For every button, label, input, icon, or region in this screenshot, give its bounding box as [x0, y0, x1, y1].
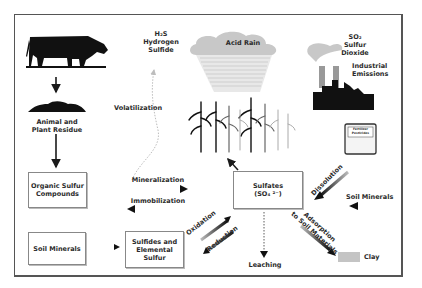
- corn-plants-icon: [189, 98, 295, 152]
- leaching-label: Leaching: [245, 261, 285, 269]
- industrial-emissions-label: Industrial Emissions: [352, 62, 392, 78]
- cow-icon: [26, 36, 108, 68]
- acid-rain-label: Acid Rain: [222, 39, 264, 47]
- mineralization-label: Mineralization: [130, 176, 186, 184]
- h2s-label: H₂S Hydrogen Sulfide: [143, 30, 179, 54]
- animal-plant-residue-label: Animal and Plant Residue: [28, 118, 86, 134]
- clay-label: Clay: [364, 253, 384, 261]
- sulfates-box: Sulfates (SO₄ ²⁻): [233, 171, 303, 209]
- residue-mound-icon: [28, 101, 86, 112]
- arrow-sulfates-to-plants: [228, 159, 238, 170]
- soil-minerals-right-label: Soil Minerals: [346, 193, 388, 201]
- volatilization-path: [132, 70, 158, 180]
- so2-label: SO₂ Sulfur Dioxide: [340, 33, 370, 57]
- soil-minerals-box: Soil Minerals: [28, 232, 86, 265]
- clay-swatch: [338, 252, 360, 262]
- sulfides-elemental-sulfur-box: Sulfides and Elemental Sulfur: [125, 231, 184, 268]
- volatilization-label: Volatilization: [114, 104, 160, 112]
- fertilizer-bag-label: Fertilizer Pesticides: [346, 127, 375, 135]
- organic-sulfur-compounds-box: Organic Sulfur Compounds: [28, 172, 87, 208]
- immobilization-label: Immobilization: [130, 197, 186, 205]
